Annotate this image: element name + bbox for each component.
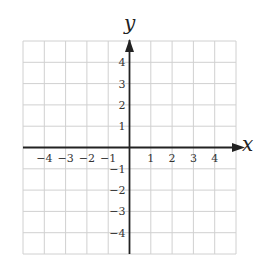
y-tick-label: 4 — [119, 56, 126, 69]
x-axis-label: x — [242, 132, 253, 156]
x-tick-label: −2 — [79, 152, 95, 165]
x-tick-label: −3 — [57, 152, 73, 165]
axes — [23, 39, 245, 254]
x-tick-label: −4 — [36, 152, 52, 165]
y-tick-label: 1 — [119, 120, 126, 133]
y-tick-label: −1 — [109, 163, 125, 176]
y-tick-label: −4 — [109, 227, 125, 240]
x-tick-label: 4 — [211, 152, 218, 165]
x-tick-label: 1 — [147, 152, 154, 165]
y-tick-label: 3 — [119, 78, 126, 91]
y-tick-label: −2 — [109, 184, 125, 197]
y-tick-label: −3 — [109, 205, 125, 218]
x-tick-labels: −4−3−2−11234 — [36, 152, 218, 165]
x-tick-label: 3 — [190, 152, 197, 165]
coordinate-plane: −4−3−2−11234 4321−1−2−3−4 x y — [0, 0, 268, 261]
y-tick-label: 2 — [119, 99, 126, 112]
x-tick-label: 2 — [169, 152, 176, 165]
y-axis-label: y — [123, 11, 136, 35]
